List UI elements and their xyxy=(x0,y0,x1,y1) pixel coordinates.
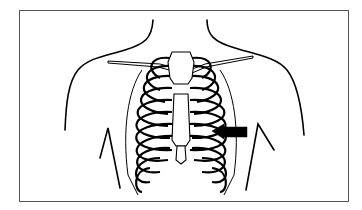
left-neck-shoulder-outline xyxy=(65,20,153,130)
indicator-arrow xyxy=(212,124,247,139)
left-arm-outline xyxy=(100,128,120,188)
xiphoid xyxy=(176,146,186,164)
right-arm-outline xyxy=(246,124,274,190)
manubrium xyxy=(168,52,194,84)
sternum-body xyxy=(172,94,190,146)
rib-cage-illustration xyxy=(0,0,362,210)
